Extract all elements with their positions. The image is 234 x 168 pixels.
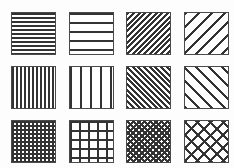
- swatch-vertical-lines-dense[interactable]: [11, 66, 56, 109]
- swatch-grid-crosshatch-sparse[interactable]: [69, 120, 114, 163]
- swatch-diagonal-backward-sparse[interactable]: [184, 66, 229, 109]
- swatch-diagonal-crosshatch-sparse[interactable]: [184, 120, 229, 163]
- swatch-vertical-lines-sparse[interactable]: [69, 66, 114, 109]
- swatch-diagonal-forward-sparse[interactable]: [184, 12, 229, 55]
- swatch-diagonal-forward-dense[interactable]: [126, 12, 171, 55]
- pattern-swatch-sheet: [0, 0, 234, 168]
- swatch-diagonal-backward-dense[interactable]: [126, 66, 171, 109]
- swatch-diagonal-crosshatch-dense[interactable]: [126, 120, 171, 163]
- swatch-grid-crosshatch-dense[interactable]: [11, 120, 56, 163]
- swatch-horizontal-lines-sparse[interactable]: [69, 12, 114, 55]
- swatch-horizontal-lines-dense[interactable]: [11, 12, 56, 55]
